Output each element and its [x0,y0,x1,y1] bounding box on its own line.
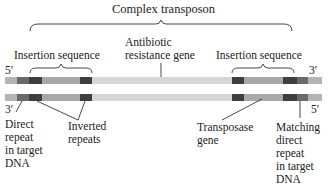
inverted-repeat-leader-line-2 [78,101,85,120]
insertion-bracket-left [30,64,92,73]
complex-transposon-diagram: Complex transposon Insertion sequence An… [0,0,330,190]
direct-repeat-label: Direct repeat in target DNA [5,118,43,170]
transposase-gene-label: Transposase gene [197,121,253,147]
direct-repeat-leader-line [16,101,22,112]
inverted-repeats-label: Inverted repeats [68,120,106,146]
complex-transposon-bracket [30,20,292,31]
insertion-bracket-right [232,64,294,73]
transposase-leader-line [222,99,262,120]
matching-direct-repeat-label: Matching direct repeat in target DNA [276,121,320,186]
inverted-repeat-leader-line-1 [37,101,78,120]
